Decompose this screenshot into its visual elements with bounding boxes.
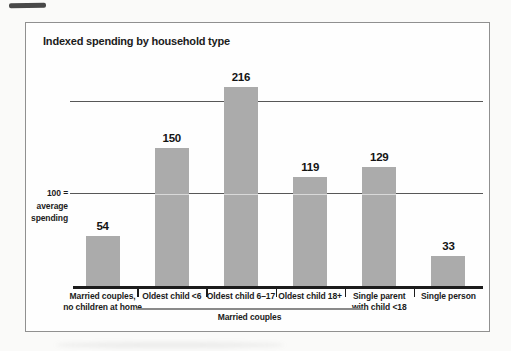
bar-group: 119 [276, 161, 345, 286]
x-axis-baseline [73, 286, 483, 289]
scan-ink-artifact [9, 3, 46, 9]
bar-single-parent [362, 167, 396, 286]
y-axis-note-line: 100 = [28, 187, 68, 200]
bar-oldest-child-18plus [293, 177, 327, 286]
scan-shadow-artifact [55, 342, 285, 348]
bar-married-no-children [86, 236, 120, 286]
value-label: 119 [301, 161, 319, 173]
y-axis-note-line: spending [28, 212, 68, 225]
bar-group: 33 [414, 240, 483, 286]
bar-group: 129 [345, 151, 414, 286]
y-axis-note: 100 = average spending [28, 187, 68, 225]
value-label: 129 [370, 151, 389, 163]
axis-tick [206, 286, 208, 297]
axis-tick [345, 286, 347, 297]
bar-oldest-child-under-6 [155, 148, 189, 286]
bar-single-person [431, 256, 465, 286]
married-couples-group-label: Married couples [136, 312, 363, 322]
bar-group: 216 [206, 71, 275, 286]
value-label: 33 [442, 240, 454, 252]
value-label: 54 [96, 220, 108, 232]
axis-tick [414, 286, 416, 297]
bar-oldest-child-6-17 [224, 87, 258, 286]
value-label: 150 [162, 132, 181, 144]
value-label: 216 [232, 71, 251, 83]
bar-group: 150 [137, 132, 206, 286]
axis-tick [137, 286, 139, 297]
axis-tick [276, 286, 278, 297]
married-couples-bracket-line [136, 308, 363, 310]
bar-group: 54 [68, 220, 137, 286]
bars-area: 54 150 216 119 129 33 [68, 71, 483, 286]
chart-frame: Indexed spending by household type 100 =… [25, 22, 490, 332]
chart-title: Indexed spending by household type [43, 35, 230, 47]
y-axis-note-line: average [28, 200, 68, 213]
